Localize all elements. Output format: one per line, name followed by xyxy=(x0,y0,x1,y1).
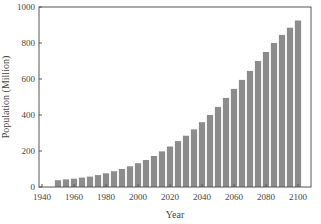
bar-2075 xyxy=(255,61,261,187)
x-tick-label: 1940 xyxy=(33,192,52,202)
bar-2090 xyxy=(279,35,285,187)
x-tick-label: 2060 xyxy=(225,192,244,202)
bar-1985 xyxy=(111,171,117,187)
x-tick-label: 2020 xyxy=(161,192,180,202)
bar-2055 xyxy=(223,98,229,187)
bar-2070 xyxy=(247,71,253,187)
x-tick-label: 2100 xyxy=(289,192,308,202)
bar-2045 xyxy=(207,115,213,187)
y-tick-label: 400 xyxy=(22,110,36,120)
y-axis-label: Population (Million) xyxy=(0,56,12,139)
bar-1975 xyxy=(95,175,101,187)
bar-2085 xyxy=(271,43,277,187)
bar-2000 xyxy=(135,163,141,187)
bar-2020 xyxy=(167,147,173,188)
bar-1955 xyxy=(63,179,69,187)
y-axis-ticks: 02004006008001000 xyxy=(17,2,42,192)
y-tick-label: 800 xyxy=(22,38,36,48)
bar-2025 xyxy=(175,141,181,187)
bar-2065 xyxy=(239,80,245,187)
bar-2100 xyxy=(295,21,301,188)
bar-2080 xyxy=(263,52,269,187)
bar-series xyxy=(55,21,301,188)
bar-1995 xyxy=(127,166,133,187)
bar-1965 xyxy=(79,178,85,187)
bar-1950 xyxy=(55,180,61,187)
bar-2095 xyxy=(287,28,293,187)
bar-1970 xyxy=(87,177,93,187)
x-tick-label: 2080 xyxy=(257,192,276,202)
population-bar-chart: 194019601980200020202040206020802100 020… xyxy=(0,0,321,224)
x-tick-label: 1980 xyxy=(97,192,116,202)
x-axis-ticks: 194019601980200020202040206020802100 xyxy=(33,184,308,202)
x-axis-label: Year xyxy=(166,209,185,220)
y-tick-label: 0 xyxy=(31,182,36,192)
bar-2005 xyxy=(143,160,149,187)
x-tick-label: 2040 xyxy=(193,192,212,202)
bar-2010 xyxy=(151,156,157,187)
x-tick-label: 1960 xyxy=(65,192,84,202)
bar-2040 xyxy=(199,122,205,187)
x-tick-label: 2000 xyxy=(129,192,148,202)
bar-1990 xyxy=(119,169,125,187)
bar-2015 xyxy=(159,151,165,187)
bar-2030 xyxy=(183,136,189,187)
bar-2050 xyxy=(215,107,221,187)
y-tick-label: 1000 xyxy=(17,2,36,12)
y-tick-label: 600 xyxy=(22,74,36,84)
bar-2035 xyxy=(191,129,197,187)
bar-2060 xyxy=(231,89,237,187)
y-tick-label: 200 xyxy=(22,146,36,156)
